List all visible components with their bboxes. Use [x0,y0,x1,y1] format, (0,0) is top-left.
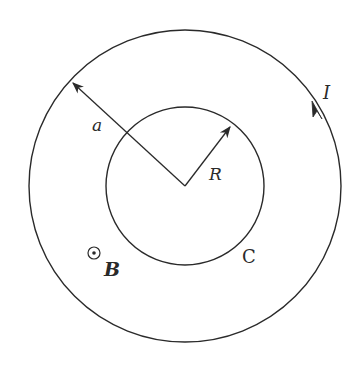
radius-a-arrow [73,83,185,186]
radius-r-arrow [185,127,230,186]
field-out-of-page-icon [88,247,100,259]
label-i: I [322,82,331,103]
label-r: R [208,164,222,184]
label-b: B [103,258,120,280]
label-c: C [242,246,256,267]
label-a: a [92,115,102,135]
diagram-canvas: a R I C B [0,0,361,367]
